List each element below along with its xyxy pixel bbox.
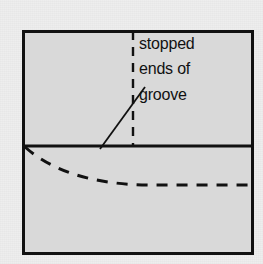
- annotation-text-line-1: stopped: [139, 36, 195, 52]
- component-body-fill: [24, 32, 253, 254]
- annotation-text-line-3: groove: [139, 87, 187, 103]
- annotation-text-line-2: ends of: [139, 61, 190, 77]
- technical-drawing-figure: [0, 0, 263, 264]
- drawing-canvas: stopped ends of groove: [0, 0, 263, 264]
